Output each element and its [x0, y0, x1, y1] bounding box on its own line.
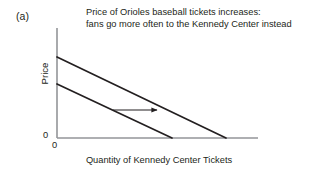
x-axis-label: Quantity of Kennedy Center Tickets [0, 155, 318, 165]
initial-demand-curve [57, 84, 172, 138]
x-axis-origin-zero-label: 0 [52, 140, 57, 150]
y-axis-origin-zero-label: 0 [43, 130, 48, 140]
shifted-demand-curve [57, 57, 226, 138]
y-axis-label: Price [39, 54, 50, 94]
figure-panel-a: (a) Price of Orioles baseball tickets in… [0, 0, 328, 176]
